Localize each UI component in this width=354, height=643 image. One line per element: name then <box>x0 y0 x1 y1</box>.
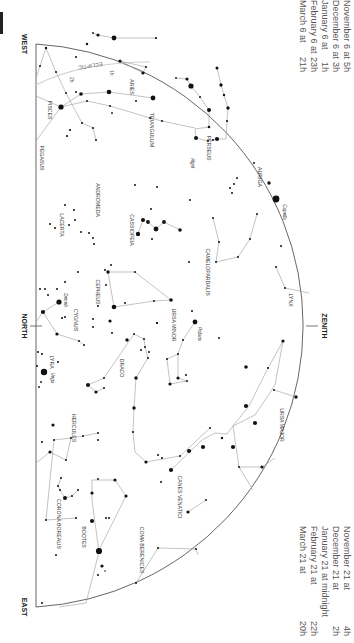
label-capella: Capella <box>282 204 287 220</box>
zenith-label: ZENITH <box>321 313 328 338</box>
label-ursa-major: URSA MAJOR <box>279 408 285 442</box>
label-aries: ARIES <box>129 79 135 95</box>
label-triangulum: TRIANGULUM <box>149 113 155 147</box>
label-pisces: PISCES <box>47 100 53 120</box>
label-coma-berenices: COMA BERENICES <box>139 527 145 574</box>
label-pegasus: PEGASUS <box>39 145 45 171</box>
ecliptic-marker-1h: 1h <box>109 70 115 76</box>
time-row: November 6 at5h <box>341 0 352 72</box>
time-row: March 6 at21h <box>297 0 308 72</box>
time-row: December 6 at3h <box>330 0 341 72</box>
label-hercules: HERCULES <box>71 414 77 443</box>
label-ursa-minor: URSA MINOR <box>171 309 177 342</box>
label-camelopardalis: CAMELOPARDALIS <box>205 248 211 296</box>
ecliptic-marker-2h: 2h <box>69 77 75 83</box>
observation-times-bottom: November 21 at4h December 21 at2h Januar… <box>262 526 352 636</box>
time-row: February 6 at23h <box>308 0 319 72</box>
north-label: NORTH <box>21 314 28 339</box>
label-draco: DRACO <box>119 359 125 378</box>
constellation-labels: PISCES ARIES TRIANGULUM PERSEUS PEGASUS … <box>39 79 294 574</box>
label-lynx: LYNX <box>288 293 294 307</box>
east-label: EAST <box>21 598 28 617</box>
label-polaris: Polaris <box>197 327 202 342</box>
label-andromeda: ANDROMEDA <box>95 183 101 217</box>
label-algol: Algol <box>190 157 195 169</box>
time-row: March 21 at20h <box>297 526 308 636</box>
time-row: November 21 at4h <box>341 526 352 636</box>
label-corona-borealis: CORONA BOREALIS <box>56 499 62 549</box>
label-perseus: PERSEUS <box>206 136 212 161</box>
label-bootes: BOOTES <box>81 526 87 548</box>
label-vega: Vega <box>50 373 55 384</box>
label-auriga: AURIGA <box>257 167 263 187</box>
time-row: January 6 at1h <box>319 0 330 72</box>
ecliptic-label: ECLIPTIC <box>78 61 103 70</box>
observation-times-top: November 6 at5h December 6 at3h January … <box>262 0 352 110</box>
label-lyra: LYRA <box>49 355 55 369</box>
west-label: WEST <box>21 34 28 55</box>
label-cygnus: CYGNUS <box>73 309 79 332</box>
label-canes-venatici: CANES VENATICI <box>177 476 183 519</box>
label-lacerta: LACERTA <box>59 213 65 237</box>
time-row: January 21 at midnight <box>319 526 330 636</box>
label-deneb: Deneb <box>63 293 68 307</box>
time-row: December 21 at2h <box>330 526 341 636</box>
label-cepheus: CEPHEUS <box>95 279 101 305</box>
label-cassiopeia: CASSIOPEIA <box>129 214 135 246</box>
time-row: February 21 at22h <box>308 526 319 636</box>
star-labels: Algol Capella Deneb Polaris Vega <box>50 157 287 384</box>
